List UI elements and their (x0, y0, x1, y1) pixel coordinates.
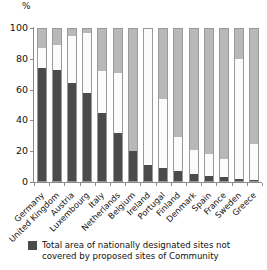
bar-segment (234, 179, 244, 182)
bar-segment (82, 93, 92, 182)
y-tick-label-20: 20 (0, 145, 28, 156)
bar-segment (204, 176, 214, 182)
bar-segment (52, 70, 62, 182)
bar-segment (204, 28, 214, 154)
bar-segment (158, 168, 168, 182)
bar-portugal (158, 28, 168, 182)
bar-finland (173, 28, 183, 182)
bar-segment (189, 150, 199, 175)
bar-segment (204, 154, 214, 176)
bar-united-kingdom (52, 28, 62, 182)
legend-swatch-dark (28, 241, 37, 250)
bar-segment (143, 165, 153, 182)
y-tick-label-40: 40 (0, 114, 28, 125)
y-axis-unit-label: % (22, 1, 31, 11)
y-tick-label-80: 80 (0, 53, 28, 64)
bar-segment (37, 48, 47, 68)
y-tick-label-100: 100 (0, 22, 28, 33)
bar-italy (97, 28, 107, 182)
bar-luxembourg (82, 28, 92, 182)
bar-spain (204, 28, 214, 182)
bar-segment (249, 144, 259, 181)
bar-segment (82, 33, 92, 93)
bar-segment (97, 71, 107, 113)
bar-germany (37, 28, 47, 182)
bar-segment (173, 171, 183, 182)
bar-segment (143, 28, 153, 165)
bar-segment (113, 133, 123, 182)
bar-netherlands (113, 28, 123, 182)
bar-segment (37, 28, 47, 48)
bar-segment (97, 28, 107, 71)
bar-segment (158, 28, 168, 99)
plot-area (34, 28, 262, 182)
stacked-bar-chart: % 020406080100 GermanyUnited KingdomAust… (0, 0, 267, 270)
bar-segment (173, 28, 183, 137)
bar-segment (67, 28, 77, 36)
y-tick-label-60: 60 (0, 84, 28, 95)
bar-segment (128, 28, 138, 151)
bar-denmark (189, 28, 199, 182)
bar-segment (249, 28, 259, 144)
legend-label: Total area of nationally designated site… (42, 240, 264, 261)
x-axis-line (33, 182, 262, 183)
bar-segment (249, 180, 259, 182)
bar-segment (219, 177, 229, 182)
bar-segment (37, 68, 47, 182)
bar-segment (67, 36, 77, 84)
bar-sweden (234, 28, 244, 182)
bar-segment (219, 28, 229, 159)
bar-segment (52, 28, 62, 45)
bar-segment (113, 73, 123, 133)
bar-austria (67, 28, 77, 182)
bar-segment (113, 28, 123, 73)
bar-segment (173, 137, 183, 171)
bar-segment (189, 28, 199, 150)
bar-belgium (128, 28, 138, 182)
bar-segment (67, 83, 77, 182)
bar-segment (219, 159, 229, 177)
x-axis-category-labels: GermanyUnited KingdomAustriaLuxembourgIt… (0, 186, 267, 234)
bar-france (219, 28, 229, 182)
bar-ireland (143, 28, 153, 182)
bar-segment (97, 113, 107, 182)
bar-segment (189, 174, 199, 182)
bar-segment (82, 28, 92, 33)
chart-legend: Total area of nationally designated site… (28, 240, 264, 261)
bar-segment (128, 151, 138, 182)
bar-segment (234, 59, 244, 179)
bar-segment (234, 28, 244, 59)
bar-segment (52, 45, 62, 70)
bar-greece (249, 28, 259, 182)
bar-segment (158, 99, 168, 168)
